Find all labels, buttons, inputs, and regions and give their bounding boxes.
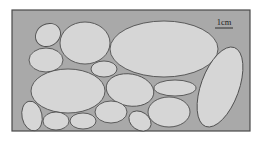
ellipse-e11 bbox=[43, 112, 69, 130]
scale-label: 1cm bbox=[217, 17, 232, 27]
ellipse-e5 bbox=[91, 61, 117, 77]
ellipse-packing-diagram: 1cm bbox=[0, 0, 261, 141]
ellipse-e4 bbox=[29, 48, 63, 72]
ellipse-e8 bbox=[154, 80, 196, 96]
ellipse-e12 bbox=[70, 113, 96, 129]
ellipse-e15 bbox=[148, 97, 190, 127]
ellipse-e3 bbox=[110, 21, 218, 77]
ellipse-e13 bbox=[95, 101, 127, 123]
ellipse-e2 bbox=[60, 22, 110, 64]
ellipse-e6 bbox=[31, 69, 105, 113]
